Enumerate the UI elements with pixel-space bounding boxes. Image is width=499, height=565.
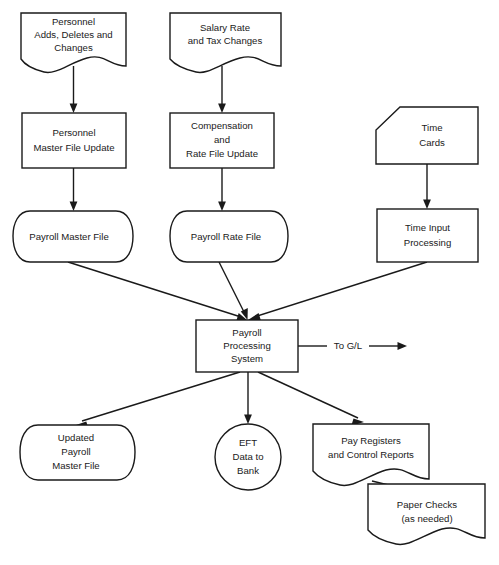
node-label-line: and Control Reports [328, 449, 414, 460]
node-label-line: Processing [404, 237, 451, 248]
node-label-line: (as needed) [401, 513, 452, 524]
edge-time-input-to-processing [248, 262, 427, 321]
node-label-line: Master File [52, 460, 99, 471]
node-salary-changes[interactable]: Salary Rate and Tax Changes [170, 13, 281, 72]
node-paper-checks[interactable]: Paper Checks (as needed) [368, 484, 485, 544]
node-label-line: Payroll [232, 327, 261, 338]
node-payroll-master-file[interactable]: Payroll Master File [13, 211, 133, 262]
node-label-line: EFT [239, 437, 257, 448]
edge-personnel-changes-to-update [70, 66, 78, 113]
node-label-line: Time [422, 122, 443, 133]
node-updated-payroll-master-file[interactable]: Updated Payroll Master File [20, 425, 135, 480]
node-label-line: Updated [58, 432, 94, 443]
edge-update-to-payroll-master [70, 168, 78, 211]
node-pay-registers[interactable]: Pay Registers and Control Reports [313, 424, 429, 485]
node-compensation-rate-update[interactable]: Compensation and Rate File Update [170, 113, 274, 168]
node-personnel-changes[interactable]: Personnel Adds, Deletes and Changes [21, 13, 126, 72]
node-label-line: Personnel [52, 16, 95, 27]
payroll-flowchart: Personnel Adds, Deletes and Changes Sala… [0, 0, 499, 565]
node-label-line: Bank [237, 465, 259, 476]
node-eft-data-to-bank[interactable]: EFT Data to Bank [215, 424, 281, 490]
node-label-line: Rate File Update [186, 148, 258, 159]
edge-comp-update-to-rate-file [218, 168, 226, 211]
node-label-line: Payroll Rate File [191, 231, 261, 242]
node-label-line: Payroll [61, 446, 90, 457]
node-label-line: and Tax Changes [188, 35, 263, 46]
node-label-line: and [214, 134, 230, 145]
edge-payroll-master-to-processing [68, 262, 247, 321]
node-label-line: Processing [223, 340, 270, 351]
edge-processing-to-eft [244, 372, 252, 424]
node-payroll-rate-file[interactable]: Payroll Rate File [170, 211, 288, 262]
edge-time-cards-to-time-input [423, 164, 431, 209]
flowchart-canvas: Personnel Adds, Deletes and Changes Sala… [0, 0, 499, 565]
node-label-line: Data to [233, 451, 264, 462]
node-label-line: Personnel [52, 127, 95, 138]
node-time-cards[interactable]: Time Cards [376, 107, 478, 164]
node-label-line: Changes [54, 42, 93, 53]
node-label-line: Master File Update [33, 142, 114, 153]
node-label-line: Cards [419, 137, 445, 148]
node-time-input-processing[interactable]: Time Input Processing [377, 209, 478, 262]
node-label-line: System [231, 353, 263, 364]
node-label-line: Paper Checks [397, 499, 457, 510]
edge-processing-to-pay-registers [258, 372, 364, 426]
edge-label-to-gl: To G/L [334, 340, 363, 351]
node-label-line: Adds, Deletes and [34, 29, 112, 40]
node-payroll-processing-system[interactable]: Payroll Processing System [196, 320, 298, 372]
node-label-line: Payroll Master File [29, 231, 108, 242]
edge-salary-changes-to-comp-update [218, 66, 226, 113]
node-label-line: Salary Rate [200, 22, 250, 33]
node-label-line: Time Input [405, 222, 450, 233]
node-label-line: Pay Registers [341, 435, 401, 446]
node-personnel-master-update[interactable]: Personnel Master File Update [22, 113, 126, 168]
node-label-line: Compensation [191, 120, 253, 131]
edge-processing-to-updated-master [76, 372, 240, 429]
